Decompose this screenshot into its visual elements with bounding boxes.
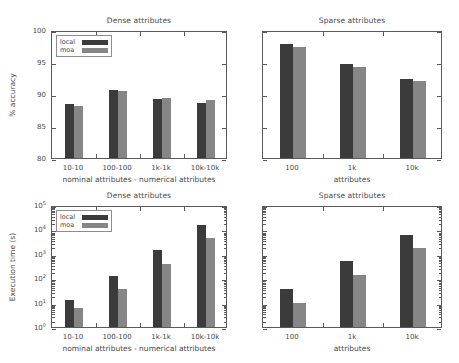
y-tick-bottom-left [224, 284, 227, 285]
bar-top-right-1k-local [340, 64, 353, 158]
x-tick-bottom-right [323, 207, 324, 211]
y-tick-bottom-right [439, 224, 442, 225]
bar-top-left-1k1k-local [153, 99, 162, 158]
y-tick-bottom-right [439, 214, 442, 215]
y-tick-bottom-right [263, 317, 266, 318]
y-tick-bottom-right [439, 266, 442, 267]
bar-top-left-100100-moa [118, 91, 127, 158]
y-tick-top-left [52, 160, 56, 161]
y-tick-bottom-right [439, 233, 442, 234]
bar-bottom-left-1k1k-moa [162, 264, 171, 327]
y-tick-bottom-right [263, 257, 266, 258]
legend-row-local: local [60, 38, 108, 46]
x-tick-bottom-left [184, 323, 185, 327]
y-tick-bottom-right [439, 290, 442, 291]
y-tick-bottom-right [263, 212, 266, 213]
y-tick-bottom-left [52, 266, 55, 267]
y-tick-bottom-right [263, 307, 266, 308]
legend-label-moa: moa [60, 46, 79, 54]
y-tick-bottom-left [222, 256, 226, 257]
y-tick-bottom-left [52, 280, 56, 281]
panel-title-top-left: Dense attributes [51, 16, 227, 25]
x-tick-top-left [96, 154, 97, 158]
y-tick-bottom-right [437, 280, 441, 281]
bar-bottom-right-100-moa [293, 303, 306, 327]
figure-multipanel-bar-charts: Dense attributeslocalmoa1009590858010-10… [0, 0, 459, 363]
x-tick-top-left [184, 32, 185, 36]
x-tick-top-left [184, 154, 185, 158]
y-tick-bottom-left [224, 322, 227, 323]
panel-title-top-right: Sparse attributes [262, 16, 442, 25]
bar-bottom-left-10k10k-local [197, 225, 206, 327]
y-tick-bottom-right [439, 237, 442, 238]
y-tick-bottom-left [52, 288, 55, 289]
y-tick-label-top-left: 85 [20, 123, 46, 131]
y-tick-bottom-right [263, 248, 266, 249]
x-tick-label-bottom-right: 1k [348, 333, 357, 341]
legend-bottom-left: localmoa [56, 210, 112, 232]
x-tick-label-bottom-left: 1k-1k [151, 333, 171, 341]
y-tick-bottom-left [52, 235, 55, 236]
y-tick-bottom-right [437, 256, 441, 257]
y-tick-bottom-left [224, 306, 227, 307]
y-tick-bottom-right [263, 260, 266, 261]
y-tick-top-right [263, 160, 267, 161]
bar-bottom-left-100100-local [109, 276, 118, 327]
x-tick-label-top-left: 100-100 [102, 164, 131, 172]
bar-bottom-right-10k-local [400, 235, 413, 327]
y-tick-bottom-right [439, 211, 442, 212]
y-tick-bottom-right [439, 307, 442, 308]
bar-bottom-right-100-local [280, 289, 293, 327]
y-tick-bottom-left [224, 273, 227, 274]
y-tick-top-left [222, 32, 226, 33]
y-tick-bottom-left [52, 217, 55, 218]
x-tick-label-bottom-right: 10k [406, 333, 419, 341]
y-tick-bottom-right [263, 266, 266, 267]
y-tick-bottom-left [224, 244, 227, 245]
bar-top-left-10k10k-moa [206, 100, 215, 158]
y-tick-bottom-right [263, 308, 266, 309]
y-tick-bottom-right [263, 312, 266, 313]
x-tick-bottom-left [140, 323, 141, 327]
legend-row-moa: moa [60, 221, 108, 229]
y-tick-bottom-right [439, 317, 442, 318]
y-tick-bottom-right [263, 234, 266, 235]
y-tick-bottom-left [224, 211, 227, 212]
y-tick-bottom-left [52, 233, 55, 234]
y-tick-bottom-left [224, 283, 227, 284]
y-tick-bottom-right [263, 208, 266, 209]
y-tick-bottom-left [224, 286, 227, 287]
y-tick-bottom-right [439, 308, 442, 309]
y-tick-bottom-left [52, 281, 55, 282]
y-tick-bottom-left [224, 257, 227, 258]
y-tick-label-top-left: 80 [20, 155, 46, 163]
legend-swatch-local [82, 215, 108, 220]
bar-bottom-left-1010-moa [74, 308, 83, 327]
y-tick-bottom-left [52, 293, 55, 294]
y-tick-bottom-left [224, 288, 227, 289]
y-tick-bottom-left [224, 293, 227, 294]
y-axis-title-bottom-left: Execution time (s) [8, 233, 17, 301]
y-tick-bottom-right [439, 293, 442, 294]
y-tick-label-top-left: 95 [20, 59, 46, 67]
x-tick-label-bottom-left: 10-10 [63, 333, 83, 341]
y-tick-bottom-left [224, 269, 227, 270]
y-tick-top-right [437, 160, 441, 161]
y-tick-label-bottom-left: 101 [20, 300, 46, 308]
y-tick-bottom-right [439, 257, 442, 258]
x-tick-label-top-left: 1k-1k [151, 164, 171, 172]
y-tick-bottom-left [224, 224, 227, 225]
y-tick-bottom-right [437, 231, 441, 232]
legend-top-left: localmoa [56, 35, 112, 57]
y-tick-bottom-left [52, 283, 55, 284]
legend-row-local: local [60, 213, 108, 221]
y-tick-bottom-left [224, 220, 227, 221]
y-tick-bottom-left [224, 258, 227, 259]
y-tick-bottom-left [52, 234, 55, 235]
legend-swatch-local [82, 40, 108, 45]
y-tick-bottom-left [224, 317, 227, 318]
y-tick-bottom-left [224, 310, 227, 311]
y-tick-top-right [437, 64, 441, 65]
legend-swatch-moa [82, 48, 108, 53]
y-tick-bottom-left [52, 256, 56, 257]
